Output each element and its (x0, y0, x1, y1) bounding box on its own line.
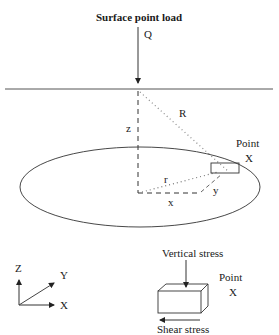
stress-element-block (158, 284, 208, 313)
point-label-line1: Point (236, 138, 259, 149)
vertical-stress-label: Vertical stress (162, 248, 223, 259)
x-offset-label: x (168, 197, 174, 208)
radial-label: r (164, 174, 168, 185)
y-offset-label: y (213, 185, 219, 196)
element-point-label-line1: Point (219, 272, 242, 283)
distance-label: R (179, 108, 186, 119)
axis-z-label: Z (15, 263, 22, 274)
point-label-line2: X (245, 153, 253, 164)
radial-line (142, 172, 218, 192)
point-element-box (211, 163, 239, 173)
depth-label: z (126, 123, 131, 134)
diagram-title: Surface point load (96, 12, 182, 23)
diagram-graphics (0, 0, 279, 335)
influence-ellipse (20, 147, 260, 227)
axes-triad (19, 280, 54, 305)
load-label: Q (144, 29, 152, 40)
element-point-label-line2: X (229, 287, 237, 298)
stress-diagram: Surface point load Q z R Point X r x y Z… (0, 0, 279, 335)
axis-y-label: Y (60, 270, 68, 281)
shear-stress-label: Shear stress (157, 324, 209, 335)
axis-x-label: X (60, 300, 68, 311)
distance-r-line (140, 92, 229, 172)
